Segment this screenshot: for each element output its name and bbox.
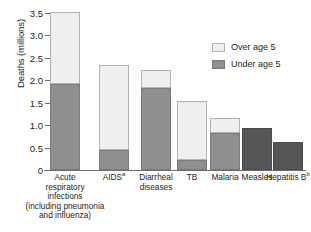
bar (242, 128, 272, 170)
bar-segment-solo (273, 142, 303, 170)
bar-segment-over-age-5 (141, 70, 171, 88)
bar-segment-over-age-5 (99, 65, 129, 150)
x-axis-label-line: and influenza) (17, 211, 113, 221)
bar-segment-under-age-5 (141, 88, 171, 170)
y-axis-tick-label: 3.5 (30, 8, 43, 19)
bar (210, 118, 240, 170)
legend-item: Over age 5 (212, 42, 281, 52)
bar (273, 142, 303, 170)
chart-figure: Deaths (millions) 00.51.01.52.02.53.03.5… (0, 0, 311, 232)
bar-segment-under-age-5 (50, 84, 80, 170)
legend-item: Under age 5 (212, 59, 281, 69)
x-axis-label-footnote-marker: a (122, 171, 125, 177)
bar-segment-solo (242, 128, 272, 170)
bar (99, 65, 129, 170)
bar-segment-under-age-5 (99, 150, 129, 170)
y-axis-tick-label: 3.0 (30, 30, 43, 41)
bar-segment-under-age-5 (177, 160, 207, 170)
y-axis-title: Deaths (millions) (15, 0, 26, 119)
bar (141, 70, 171, 170)
x-axis-line (44, 170, 306, 171)
bar-segment-under-age-5 (210, 133, 240, 170)
legend-swatch-over (212, 43, 225, 52)
bar (177, 101, 207, 170)
legend-swatch-under (212, 60, 225, 69)
x-axis-label: AIDSa (92, 173, 136, 183)
plot-area: 00.51.01.52.02.53.03.5 (50, 13, 305, 170)
legend-label: Under age 5 (231, 59, 281, 69)
bar (50, 12, 80, 170)
bar-segment-over-age-5 (177, 101, 207, 160)
x-axis-label-line: diseases (131, 183, 181, 193)
bar-segment-over-age-5 (50, 12, 80, 84)
y-axis-tick-label: 2.0 (30, 75, 43, 86)
x-axis-label: Hepatitis Bb (261, 173, 311, 183)
x-axis-label-footnote-marker: b (306, 171, 309, 177)
y-axis-tick-label: 1.5 (30, 97, 43, 108)
chart-legend: Over age 5Under age 5 (212, 42, 281, 76)
y-axis-tick-mark (45, 170, 50, 171)
bar-segment-over-age-5 (210, 118, 240, 132)
legend-label: Over age 5 (231, 42, 276, 52)
y-axis-tick-label: 1.0 (30, 120, 43, 131)
x-axis-label-line: Hepatitis Bb (261, 173, 311, 183)
y-axis-tick-label: 2.5 (30, 52, 43, 63)
x-axis-label-line: AIDSa (92, 173, 136, 183)
y-axis-tick-label: 0.5 (30, 142, 43, 153)
x-axis-label: Diarrhealdiseases (131, 173, 181, 192)
